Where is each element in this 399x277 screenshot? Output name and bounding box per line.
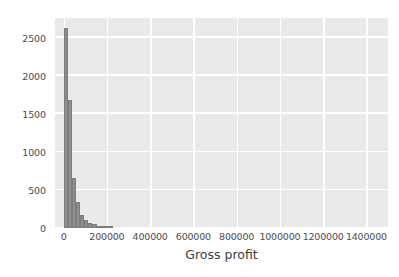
y-tick-label: 500	[28, 184, 46, 195]
x-tick-label: 0	[61, 231, 67, 242]
plot-axes-area	[55, 18, 388, 228]
y-tick-label: 1500	[22, 108, 46, 119]
histogram-bars	[55, 18, 388, 228]
x-tick-label: 800000	[219, 231, 254, 242]
x-tick-label: 400000	[133, 231, 168, 242]
x-tick-label: 1000000	[259, 231, 300, 242]
y-tick-label: 1000	[22, 146, 46, 157]
y-tick-label: 0	[40, 223, 46, 234]
x-tick-label: 1400000	[346, 231, 387, 242]
x-tick-label: 200000	[89, 231, 124, 242]
y-tick-label: 2000	[22, 70, 46, 81]
x-axis-label: Gross profit	[55, 247, 388, 262]
x-axis-tick-labels: 0200000400000600000800000100000012000001…	[55, 228, 388, 244]
x-tick-label: 600000	[176, 231, 211, 242]
histogram-figure: 05001000150020002500 0200000400000600000…	[0, 0, 399, 277]
y-axis-tick-labels: 05001000150020002500	[0, 18, 50, 228]
x-tick-label: 1200000	[303, 231, 344, 242]
y-tick-label: 2500	[22, 32, 46, 43]
